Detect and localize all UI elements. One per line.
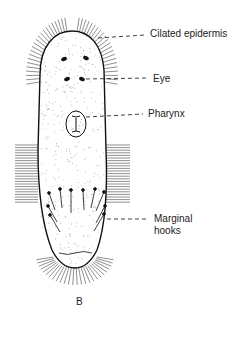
label-pharynx: Pharynx (148, 108, 185, 119)
label-hooks: hooks (154, 225, 181, 236)
label-marginal: Marginal (154, 213, 192, 224)
planarian-diagram (0, 0, 238, 352)
panel-label: B (76, 296, 83, 307)
label-eye: Eye (153, 73, 170, 84)
cilia-lateral-right (106, 145, 130, 202)
label-ciliated-epidermis: Cilated epidermis (150, 28, 227, 39)
cilia-lateral-left (15, 145, 38, 202)
body-outline (38, 31, 107, 268)
